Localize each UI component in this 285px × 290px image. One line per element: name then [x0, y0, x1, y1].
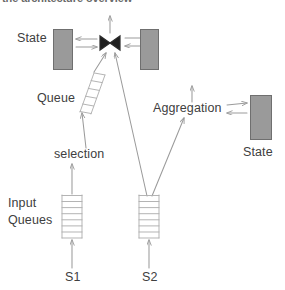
state-box-aggregation — [250, 95, 272, 140]
edge-s2queue-to-aggregation — [152, 118, 184, 196]
label-aggregation: Aggregation — [153, 101, 222, 115]
label-queue: Queue — [37, 91, 75, 105]
edge-aggregation-to-state — [227, 103, 247, 105]
label-source-s1: S1 — [65, 270, 81, 284]
join-bowtie-icon — [100, 36, 120, 50]
edge-selection-to-queue — [82, 113, 86, 148]
label-state-left: State — [17, 31, 47, 45]
input-queue-ladder-s2-icon — [139, 195, 159, 238]
edge-s2queue-to-join — [115, 53, 147, 196]
label-input-queues-line2: Queues — [8, 213, 52, 227]
state-box-left — [53, 29, 73, 70]
state-box-right — [140, 29, 159, 70]
label-selection: selection — [54, 147, 104, 161]
queue-ladder-icon — [80, 73, 105, 114]
diagram-canvas: the architecture overview — [0, 0, 285, 290]
label-source-s2: S2 — [142, 270, 158, 284]
label-input-queues-line1: Input — [8, 196, 36, 210]
edge-queue-to-join — [94, 53, 106, 72]
input-queue-ladder-s1-icon — [62, 195, 82, 238]
label-state-aggregation: State — [243, 145, 273, 159]
